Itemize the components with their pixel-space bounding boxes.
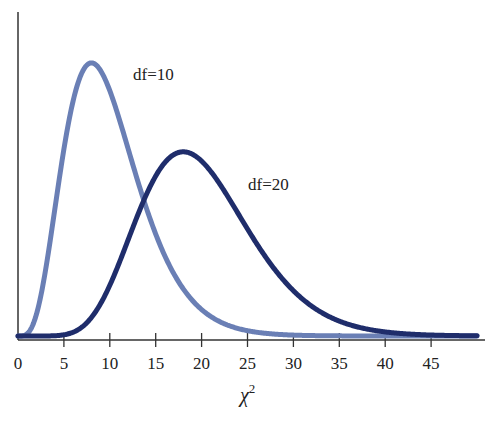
chi-square-chart: 051015202530354045 df=10 df=20 χ2 [0, 0, 489, 422]
x-tick-label: 45 [423, 354, 440, 373]
x-tick-label: 0 [14, 354, 23, 373]
label-df10: df=10 [133, 65, 174, 84]
x-tick-label: 30 [285, 354, 302, 373]
x-tick-label: 10 [101, 354, 118, 373]
x-tick-label: 40 [377, 354, 394, 373]
label-df20: df=20 [248, 175, 289, 194]
x-tick-label: 25 [239, 354, 256, 373]
x-tick-label: 35 [331, 354, 348, 373]
x-tick-label: 20 [193, 354, 210, 373]
x-axis-label: χ2 [238, 381, 255, 407]
x-tick-labels: 051015202530354045 [14, 354, 440, 373]
x-tick-label: 15 [147, 354, 164, 373]
x-tick-label: 5 [60, 354, 69, 373]
curve-df10 [18, 63, 477, 336]
